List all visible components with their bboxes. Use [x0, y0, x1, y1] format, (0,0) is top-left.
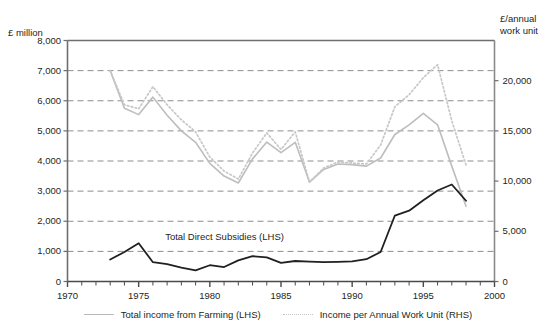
- y-axis-tick-label: 7,000: [8, 65, 61, 76]
- legend-item-label: Total income from Farming (LHS): [121, 309, 261, 320]
- y-axis-tick-label: 2,000: [8, 215, 61, 226]
- legend-item[interactable]: Total income from Farming (LHS): [84, 309, 261, 320]
- y-axis-tick-label: 4,000: [8, 155, 61, 166]
- chart-plot-area: [0, 0, 556, 336]
- y-axis-tick-label: 3,000: [8, 185, 61, 196]
- y2-axis-tick-label: 15,000: [503, 125, 532, 136]
- series-line: [110, 65, 466, 182]
- y-axis-tick-label: 8,000: [8, 35, 61, 46]
- x-axis-tick-label: 2000: [470, 290, 520, 301]
- x-axis-tick-label: 1995: [398, 290, 448, 301]
- y-axis-tick-label: 1,000: [8, 245, 61, 256]
- legend-line-swatch: [283, 311, 313, 319]
- chart-legend: Total income from Farming (LHS)Income pe…: [0, 309, 556, 320]
- series-lines: [110, 65, 466, 271]
- y2-axis-tick-label: 0: [503, 276, 508, 287]
- y-axis-tick-label: 0: [8, 276, 61, 287]
- x-axis-tick-label: 1980: [185, 290, 235, 301]
- x-axis-tick-label: 1975: [114, 290, 164, 301]
- y2-axis-tick-label: 20,000: [503, 75, 532, 86]
- y2-axis-tick-label: 5,000: [503, 225, 527, 236]
- y-axis-tick-label: 5,000: [8, 125, 61, 136]
- series-line: [110, 185, 466, 271]
- chart-figure: £ million £/annual work unit 01,0002,000…: [0, 0, 556, 336]
- y-axis-tick-label: 6,000: [8, 95, 61, 106]
- x-axis-tick-label: 1990: [327, 290, 377, 301]
- series-annotation-label: Total Direct Subsidies (LHS): [165, 231, 284, 242]
- gridlines: [68, 71, 495, 252]
- legend-item-label: Income per Annual Work Unit (RHS): [320, 309, 472, 320]
- y2-axis-tick-label: 10,000: [503, 175, 532, 186]
- legend-line-swatch: [84, 311, 114, 319]
- legend-item[interactable]: Income per Annual Work Unit (RHS): [283, 309, 472, 320]
- x-axis-tick-label: 1985: [256, 290, 306, 301]
- x-axis-tick-label: 1970: [43, 290, 93, 301]
